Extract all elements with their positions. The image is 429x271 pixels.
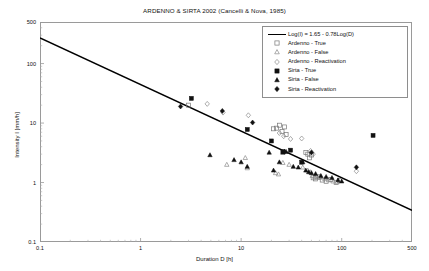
data-point bbox=[313, 172, 317, 176]
legend-item-label: Log(I) = 1.65 - 0.78Log(D) bbox=[288, 30, 354, 39]
data-point bbox=[288, 136, 292, 141]
x-axis-label: Duration D [h] bbox=[0, 256, 429, 262]
data-point bbox=[283, 125, 287, 129]
data-point bbox=[243, 156, 247, 160]
data-point bbox=[250, 120, 254, 125]
data-point bbox=[291, 164, 295, 168]
y-tick-label: 1 bbox=[33, 180, 36, 186]
data-point bbox=[205, 101, 209, 106]
y-tick-label: 10 bbox=[30, 120, 36, 126]
data-point bbox=[269, 139, 273, 143]
series-ardenno-false bbox=[225, 156, 340, 184]
data-point bbox=[178, 104, 182, 109]
legend-item[interactable]: Sirta - False bbox=[266, 75, 404, 84]
data-point bbox=[267, 150, 271, 154]
y-axis-label: Intensity I [mm/h] bbox=[14, 90, 20, 180]
data-point bbox=[287, 162, 291, 166]
data-point bbox=[208, 153, 212, 157]
data-point bbox=[277, 131, 281, 136]
legend: Log(I) = 1.65 - 0.78Log(D)Ardenno - True… bbox=[262, 26, 408, 98]
legend-item-label: Ardenno - False bbox=[288, 48, 328, 57]
legend-item-label: Ardenno - True bbox=[288, 39, 326, 48]
data-point bbox=[239, 160, 243, 164]
data-point bbox=[232, 158, 236, 162]
legend-line-icon bbox=[268, 34, 286, 35]
legend-item[interactable]: Ardenno - Reactivation bbox=[266, 57, 404, 66]
data-point bbox=[319, 173, 323, 177]
legend-item-label: Sirta - False bbox=[288, 75, 319, 84]
data-point bbox=[245, 127, 249, 131]
x-tick-label: 10 bbox=[238, 245, 244, 251]
data-point bbox=[299, 136, 303, 141]
data-point bbox=[245, 164, 249, 168]
data-point bbox=[296, 165, 300, 169]
legend-item[interactable]: Ardenno - True bbox=[266, 39, 404, 48]
series-ardenno-true bbox=[187, 103, 342, 184]
legend-marker-icon bbox=[266, 85, 288, 94]
x-tick-label: 100 bbox=[337, 245, 346, 251]
legend-item[interactable]: Sirta - Reactivation bbox=[266, 85, 404, 94]
x-tick-label: 0.1 bbox=[36, 245, 44, 251]
x-tick-label: 500 bbox=[407, 245, 416, 251]
legend-item-label: Sirta - True bbox=[288, 66, 316, 75]
data-point bbox=[340, 179, 344, 183]
legend-item-label: Sirta - Reactivation bbox=[288, 85, 336, 94]
figure: ARDENNO & SIRTA 2002 (Cancelli & Nova, 1… bbox=[0, 0, 429, 271]
data-point bbox=[189, 96, 193, 100]
legend-item[interactable]: Ardenno - False bbox=[266, 48, 404, 57]
data-point bbox=[277, 123, 281, 127]
y-tick-label: 0.1 bbox=[28, 239, 36, 245]
y-tick-label: 500 bbox=[27, 19, 36, 25]
legend-item[interactable]: Sirta - True bbox=[266, 66, 404, 75]
data-point bbox=[271, 168, 275, 172]
data-point bbox=[246, 113, 250, 118]
legend-item-label: Ardenno - Reactivation bbox=[288, 57, 346, 66]
data-point bbox=[301, 165, 305, 169]
chart-title: ARDENNO & SIRTA 2002 (Cancelli & Nova, 1… bbox=[0, 7, 429, 14]
data-point bbox=[289, 148, 293, 152]
y-tick-label: 100 bbox=[27, 61, 36, 67]
data-point bbox=[277, 160, 281, 164]
data-point bbox=[371, 133, 375, 137]
x-tick-label: 1 bbox=[139, 245, 142, 251]
data-point bbox=[225, 162, 229, 166]
legend-item[interactable]: Log(I) = 1.65 - 0.78Log(D) bbox=[266, 30, 404, 39]
data-point bbox=[354, 165, 358, 170]
